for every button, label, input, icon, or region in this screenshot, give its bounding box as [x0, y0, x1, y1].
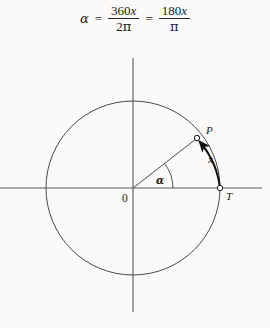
- angle-alpha-arc: [165, 164, 174, 189]
- diagram-region: P T 0 x α: [0, 0, 270, 328]
- point-p-marker: [194, 135, 199, 140]
- unit-circle-diagram: P T 0 x α: [0, 0, 270, 328]
- angle-alpha-label: α: [156, 174, 164, 186]
- arc-length-x-label: x: [207, 153, 213, 165]
- point-p-label: P: [205, 124, 213, 136]
- point-t-label: T: [226, 190, 233, 202]
- point-t-marker: [217, 185, 222, 190]
- origin-label: 0: [122, 192, 128, 204]
